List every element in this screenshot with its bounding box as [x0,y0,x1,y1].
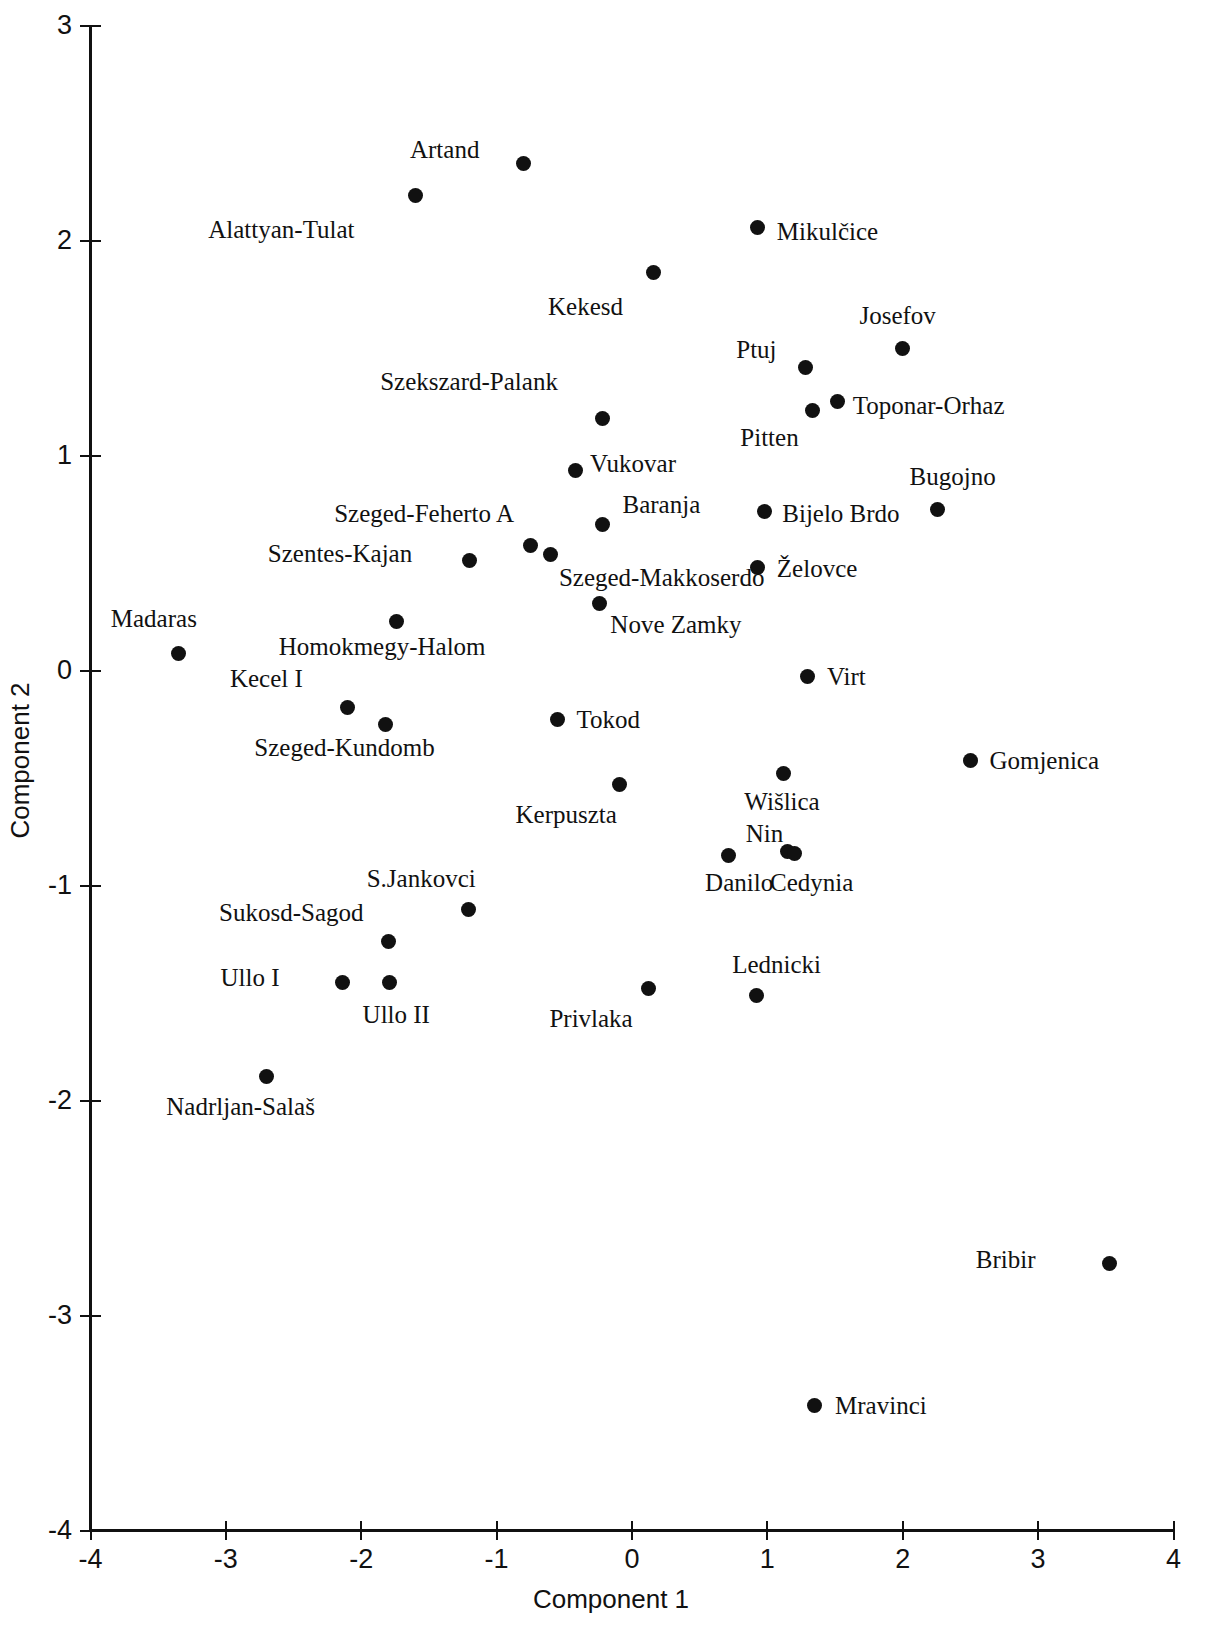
data-point[interactable] [378,717,393,732]
data-point-label: Nove Zamky [610,612,741,637]
data-point[interactable] [749,988,764,1003]
x-tick-mark [225,1521,227,1540]
x-tick-mark [360,1521,362,1540]
data-point-label: Ullo I [220,965,279,990]
data-point-label: Gomjenica [989,748,1099,773]
data-point[interactable] [798,360,813,375]
y-tick-mark [80,1100,101,1102]
data-point-label: Nin [746,821,784,846]
data-point-label: Szentes-Kajan [268,541,412,566]
x-tick-label: 2 [873,1546,933,1573]
data-point-label: Cedynia [770,870,853,895]
data-point[interactable] [757,504,772,519]
data-point-label: Mikulčice [777,219,878,244]
y-tick-label: 3 [32,12,72,39]
data-point-label: Tokod [576,707,640,732]
x-tick-label: 4 [1144,1546,1204,1573]
data-point[interactable] [516,156,531,171]
data-point[interactable] [340,700,355,715]
data-point-label: Ptuj [736,337,776,362]
data-point-label: Pitten [740,425,798,450]
x-tick-mark [631,1521,633,1540]
x-tick-mark [1173,1521,1175,1540]
data-point[interactable] [641,981,656,996]
data-point[interactable] [381,934,396,949]
x-tick-label: 0 [602,1546,662,1573]
data-point-label: Virt [827,664,866,689]
data-point[interactable] [523,538,538,553]
data-point-label: Sukosd-Sagod [219,900,363,925]
data-point[interactable] [787,846,802,861]
data-point[interactable] [382,975,397,990]
data-point-label: Kecel I [230,666,303,691]
data-point-label: Kerpuszta [516,802,617,827]
data-point[interactable] [335,975,350,990]
y-tick-mark [80,670,101,672]
x-tick-mark [1037,1521,1039,1540]
data-point-label: Madaras [111,606,197,631]
data-point[interactable] [963,753,978,768]
y-tick-label: 2 [32,227,72,254]
data-point[interactable] [595,517,610,532]
scatter-plot: 3210-1-2-3-4 -4-3-2-101234 ArtandAlattya… [0,0,1222,1627]
data-point[interactable] [646,265,661,280]
x-tick-mark [496,1521,498,1540]
data-point-label: Szeged-Feherto A [334,501,514,526]
data-point[interactable] [462,553,477,568]
y-tick-mark [80,885,101,887]
y-tick-mark [80,455,101,457]
data-point[interactable] [568,463,583,478]
data-point[interactable] [550,712,565,727]
data-point[interactable] [807,1398,822,1413]
data-point-label: Toponar-Orhaz [853,393,1005,418]
data-point[interactable] [750,220,765,235]
data-point[interactable] [595,411,610,426]
data-point-label: Josefov [859,303,935,328]
data-point[interactable] [1102,1256,1117,1271]
x-tick-label: 3 [1008,1546,1068,1573]
x-tick-label: -3 [196,1546,256,1573]
data-point[interactable] [776,766,791,781]
y-axis-line [89,25,92,1532]
data-point[interactable] [592,596,607,611]
data-point[interactable] [543,547,558,562]
data-point-label: Bijelo Brdo [782,501,899,526]
x-tick-label: -1 [467,1546,527,1573]
data-point-label: Kekesd [548,294,623,319]
data-point[interactable] [830,394,845,409]
y-tick-mark [80,1315,101,1317]
data-point[interactable] [389,614,404,629]
data-point[interactable] [721,848,736,863]
data-point[interactable] [171,646,186,661]
x-tick-mark [766,1521,768,1540]
data-point[interactable] [408,188,423,203]
data-point-label: Bugojno [910,464,996,489]
y-tick-mark [80,240,101,242]
x-tick-mark [90,1521,92,1540]
data-point-label: Artand [410,137,479,162]
data-point[interactable] [461,902,476,917]
data-point-label: Želovce [777,556,858,581]
data-point-label: Lednicki [732,952,821,977]
y-tick-mark [80,25,101,27]
data-point[interactable] [805,403,820,418]
data-point-label: Vukovar [590,451,676,476]
data-point[interactable] [800,669,815,684]
data-point-label: Wišlica [744,789,819,814]
data-point-label: Mravinci [835,1393,927,1418]
data-point[interactable] [930,502,945,517]
y-tick-label: -1 [32,872,72,899]
data-point-label: S.Jankovci [367,866,476,891]
y-tick-label: 0 [32,657,72,684]
data-point[interactable] [612,777,627,792]
y-tick-label: -3 [32,1302,72,1329]
data-point[interactable] [259,1069,274,1084]
y-tick-label: -4 [32,1517,72,1544]
y-tick-label: 1 [32,442,72,469]
data-point-label: Ullo II [363,1002,430,1027]
data-point[interactable] [895,341,910,356]
y-axis-title: Component 2 [5,646,36,876]
data-point-label: Baranja [623,492,701,517]
data-point-label: Danilo [705,870,773,895]
data-point-label: Homokmegy-Halom [279,634,486,659]
